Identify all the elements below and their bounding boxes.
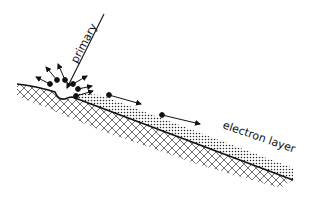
primary-label: primary xyxy=(68,21,100,66)
diagram-canvas: primary electron layer xyxy=(0,0,309,198)
